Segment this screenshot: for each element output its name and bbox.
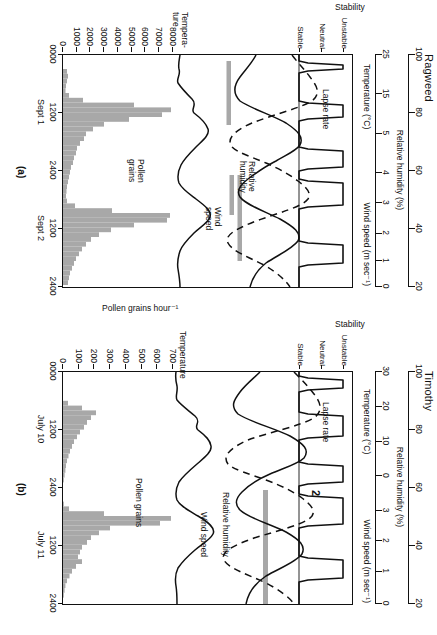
annotation-lapse-rate: Lapse rate bbox=[321, 89, 330, 129]
panel-timothy: Timothy 100 80 60 40 20 Relative humidit… bbox=[0, 325, 437, 625]
panel-a-time-axis: 0000 1200 2400 1200 2400 Sept 1 Sept 2 bbox=[29, 54, 63, 286]
panel-a-pollen-plot: Pollengrains bbox=[62, 54, 173, 288]
wind-tick: 3 bbox=[381, 508, 391, 513]
panel-b-temp-wind-axis: 30 20 10 0 3 2 1 0 Temperature (°C) Wind… bbox=[371, 371, 388, 603]
pollen-tick: 8000 bbox=[168, 27, 178, 46]
pollen-tick: 5000 bbox=[127, 27, 137, 46]
panel-b-time-axis: 0000 1200 2400 1200 2400 July 10 July 11 bbox=[29, 371, 63, 603]
pollen-tick: 700 bbox=[168, 349, 178, 363]
temp-tick: 20 bbox=[381, 401, 391, 410]
time-day-label: Sept 1 bbox=[36, 99, 46, 125]
pollen-tick: 7000 bbox=[154, 27, 164, 46]
pollen-tick: 400 bbox=[121, 349, 131, 363]
panel-b-pollen-axis-title: Pollen grains hour⁻¹ bbox=[102, 303, 178, 313]
windspeed-axis-caption: Wind speed (m sec⁻¹) bbox=[362, 371, 372, 605]
panel-b-pollen-plot: Pollen grains bbox=[62, 371, 173, 605]
axis-line bbox=[375, 54, 376, 286]
panel-b-label: (b) bbox=[16, 483, 27, 496]
panel-b-pollen-axis: 700 600 500 400 300 200 100 0 bbox=[63, 325, 173, 369]
wind-tick: 2 bbox=[381, 538, 391, 543]
stability-level: Stable bbox=[296, 343, 305, 366]
hum-tick: 60 bbox=[414, 165, 424, 174]
time-day-label: July 10 bbox=[36, 415, 46, 444]
stability-level: Unstable bbox=[340, 334, 349, 366]
stability-axis-title: Stability bbox=[335, 2, 365, 12]
wind-tick: 1 bbox=[381, 568, 391, 573]
figure-canvas: Ragweed 100 80 60 40 20 Relative humidit… bbox=[0, 0, 437, 635]
pollen-bars-a bbox=[63, 55, 173, 287]
time-tick: 0000 bbox=[48, 362, 58, 381]
stability-level: Neutral bbox=[318, 340, 327, 366]
wind-tick: 2 bbox=[381, 230, 391, 235]
pollen-tick: 100 bbox=[74, 349, 84, 363]
temp-tick: 0 bbox=[381, 473, 391, 478]
time-day-label: Sept 2 bbox=[36, 215, 46, 241]
hum-tick: 60 bbox=[414, 482, 424, 491]
hum-tick: 40 bbox=[414, 540, 424, 549]
hum-tick: 20 bbox=[414, 598, 424, 607]
panel-a-title: Ragweed bbox=[423, 54, 435, 102]
pollen-tick: 200 bbox=[90, 349, 100, 363]
time-day-label: July 11 bbox=[36, 531, 46, 559]
pollen-tick: 600 bbox=[152, 349, 162, 363]
hum-tick: 80 bbox=[414, 424, 424, 433]
panel-ragweed: Ragweed 100 80 60 40 20 Relative humidit… bbox=[0, 8, 437, 308]
panel-a-pollen-axis: 8000 7000 6000 5000 4000 3000 2000 1000 … bbox=[63, 8, 173, 52]
time-tick: 2400 bbox=[48, 594, 58, 613]
pollen-tick: 0 bbox=[58, 41, 68, 46]
annotation-wind-speed: Wind speed bbox=[199, 512, 208, 557]
wind-tick: 1 bbox=[381, 258, 391, 263]
windspeed-axis-caption: Wind speed (m sec⁻¹) bbox=[362, 54, 372, 290]
time-tick: 2400 bbox=[48, 277, 58, 296]
panel-a-upper-plot: Lapse rate Relativehumidity Windspeed bbox=[171, 54, 353, 288]
svg-text:2: 2 bbox=[310, 490, 322, 496]
pollen-tick: 6000 bbox=[141, 27, 151, 46]
pollen-bars-b bbox=[63, 372, 173, 604]
temp-tick: 15 bbox=[381, 89, 391, 98]
annotation-relative-humidity: Relativehumidity bbox=[238, 161, 256, 207]
stability-level: Neutral bbox=[318, 23, 327, 49]
time-tick: 1200 bbox=[48, 219, 58, 238]
panel-a-stability-axis: Stability Unstable Neutral Stable bbox=[291, 8, 353, 52]
annotation-pollen-grains: Pollengrains bbox=[127, 159, 145, 205]
pollen-tick: 2000 bbox=[86, 27, 96, 46]
stability-axis-title: Stability bbox=[335, 319, 365, 329]
temp-tick: 10 bbox=[381, 436, 391, 445]
hum-tick: 20 bbox=[414, 281, 424, 290]
annotation-wind-speed: Windspeed bbox=[204, 207, 222, 253]
time-tick: 1200 bbox=[48, 103, 58, 122]
time-tick: 2400 bbox=[48, 478, 58, 497]
panel-b-upper-plot: 2 Lapse rate Relative humidity Wind spee… bbox=[171, 371, 353, 605]
pollen-tick: 300 bbox=[105, 349, 115, 363]
time-tick: 0000 bbox=[48, 45, 58, 64]
hum-tick: 80 bbox=[414, 107, 424, 116]
stability-level: Stable bbox=[296, 26, 305, 49]
annotation-pollen-grains: Pollen grains bbox=[134, 478, 143, 527]
annotation-lapse-rate: Lapse rate bbox=[321, 402, 330, 442]
pollen-tick: 500 bbox=[137, 349, 147, 363]
wind-tick: 3 bbox=[381, 200, 391, 205]
stability-level: Unstable bbox=[340, 17, 349, 49]
panel-a-temp-wind-axis: 25 15 5 4 3 2 1 0 Temperature (°C) Wind … bbox=[371, 54, 388, 286]
wind-tick: 0 bbox=[381, 284, 391, 289]
temp-tick: 25 bbox=[381, 49, 391, 58]
hum-tick: 100 bbox=[414, 364, 424, 378]
pollen-tick: 0 bbox=[58, 358, 68, 363]
panel-a-humidity-axis: 100 80 60 40 20 Relative humidity (%) bbox=[404, 54, 421, 286]
annotation-relative-humidity: Relative humidity bbox=[221, 492, 230, 557]
panel-a-label: (a) bbox=[16, 166, 27, 178]
temp-tick: 5 bbox=[381, 131, 391, 136]
pollen-tick: 1000 bbox=[72, 27, 82, 46]
time-tick: 2400 bbox=[48, 161, 58, 180]
hum-tick: 100 bbox=[414, 47, 424, 61]
wind-tick: 0 bbox=[381, 601, 391, 606]
time-tick: 1200 bbox=[48, 420, 58, 439]
humidity-axis-caption: Relative humidity (%) bbox=[395, 371, 405, 603]
wind-tick: 4 bbox=[381, 170, 391, 175]
annotation-temperature: Temperature bbox=[178, 331, 187, 379]
panel-b-humidity-axis: 100 80 60 40 20 Relative humidity (%) bbox=[404, 371, 421, 603]
pollen-tick: 4000 bbox=[113, 27, 123, 46]
temp-tick: 30 bbox=[381, 366, 391, 375]
figure-root: Ragweed 100 80 60 40 20 Relative humidit… bbox=[0, 0, 437, 635]
panel-b-title: Timothy bbox=[423, 371, 435, 411]
